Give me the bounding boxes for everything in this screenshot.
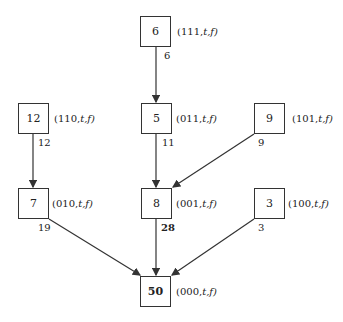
node-value: 9 — [266, 112, 273, 125]
node-value: 12 — [27, 112, 41, 125]
node-3-state-tag: (100,t,f) — [288, 198, 329, 209]
node-8-state-tag: (001,t,f) — [176, 198, 217, 209]
node-6: 6 — [140, 16, 171, 47]
node-50: 50 — [140, 276, 171, 307]
node-value: 8 — [153, 197, 160, 210]
edge-label-6-to-5: 6 — [164, 50, 170, 61]
edge-9-to-8 — [173, 134, 254, 187]
edges-layer — [0, 0, 343, 322]
node-value: 50 — [148, 285, 163, 298]
edge-7-to-50 — [49, 219, 140, 275]
node-value: 6 — [152, 25, 159, 38]
node-5: 5 — [141, 103, 172, 134]
node-7-state-tag: (010,t,f) — [52, 198, 93, 209]
node-9: 9 — [254, 103, 285, 134]
node-8: 8 — [141, 188, 172, 219]
edge-3-to-50 — [172, 219, 254, 275]
edge-label-3-to-50: 3 — [258, 222, 264, 233]
edge-label-8-to-50: 28 — [161, 222, 175, 233]
node-12: 12 — [18, 103, 49, 134]
edge-label-5-to-8: 11 — [162, 137, 175, 148]
node-value: 3 — [266, 197, 273, 210]
node-9-state-tag: (101,t,f) — [292, 113, 333, 124]
node-12-state-tag: (110,t,f) — [54, 113, 95, 124]
node-7: 7 — [18, 188, 49, 219]
edge-label-7-to-50: 19 — [38, 222, 51, 233]
node-5-state-tag: (011,t,f) — [176, 113, 217, 124]
node-3: 3 — [254, 188, 285, 219]
edge-label-9-to-8: 9 — [258, 137, 264, 148]
node-6-state-tag: (111,t,f) — [177, 26, 218, 37]
node-value: 7 — [30, 197, 37, 210]
node-50-state-tag: (000,t,f) — [176, 286, 217, 297]
node-value: 5 — [153, 112, 160, 125]
edge-label-12-to-7: 12 — [38, 137, 51, 148]
